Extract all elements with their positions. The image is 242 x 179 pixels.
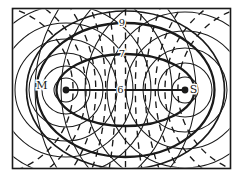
label-segment-6: 6 [117,84,123,95]
label-contour-9: 9 [119,17,125,28]
label-left-focus: M [36,79,47,92]
confocal-conics-figure: M S 9 7 6 [0,0,242,179]
figure-canvas: M S 9 7 6 [0,0,242,179]
figure-body: M S 9 7 6 [0,0,242,179]
label-contour-7: 7 [119,48,125,59]
label-right-focus: S [190,83,198,96]
focus-m-dot [63,87,70,94]
focus-s-dot [182,87,189,94]
